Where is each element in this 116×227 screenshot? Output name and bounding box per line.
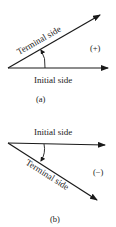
negative-sign-label: (−) xyxy=(93,167,104,177)
initial-side-label: Initial side xyxy=(34,127,72,137)
initial-side-ray xyxy=(8,143,105,145)
figure-a-positive-angle: Terminal side Initial side (+) (a) xyxy=(8,15,108,104)
counterclockwise-arc-arrow xyxy=(41,50,45,68)
terminal-side-ray xyxy=(8,15,100,68)
caption-b: (b) xyxy=(50,214,60,224)
clockwise-arc-arrow xyxy=(41,144,45,161)
figure-b-negative-angle: Initial side Terminal side (−) (b) xyxy=(8,127,105,224)
initial-side-label: Initial side xyxy=(34,75,72,85)
positive-sign-label: (+) xyxy=(90,43,101,53)
terminal-side-label: Terminal side xyxy=(24,157,71,192)
angle-diagrams: Terminal side Initial side (+) (a) Initi… xyxy=(0,0,116,227)
caption-a: (a) xyxy=(36,94,46,104)
